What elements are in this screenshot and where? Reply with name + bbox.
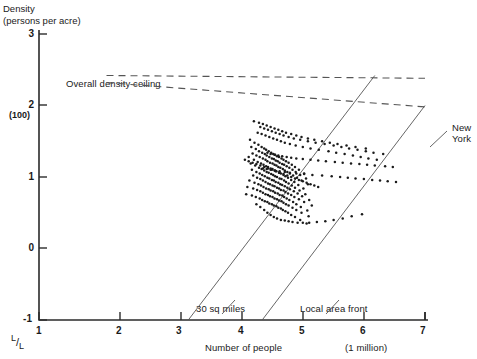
scatter-point (259, 206, 262, 209)
scatter-point (295, 209, 298, 212)
scatter-point (264, 193, 267, 196)
scatter-point (298, 169, 301, 172)
scatter-point (286, 174, 289, 177)
scatter-point (297, 184, 300, 187)
scatter-point (259, 178, 262, 181)
scatter-point (274, 181, 277, 184)
scatter-point (289, 143, 292, 146)
scatter-point (386, 180, 389, 183)
scatter-point (281, 155, 284, 158)
scatter-point (278, 194, 281, 197)
scatter-point (327, 150, 330, 153)
scatter-point (291, 169, 294, 172)
scatter-point (292, 201, 295, 204)
scatter-point (256, 176, 259, 179)
scatter-point (268, 202, 271, 205)
scatter-point (299, 139, 302, 142)
scatter-point (264, 175, 267, 178)
scatter-point (291, 221, 294, 224)
scatter-point (273, 127, 276, 130)
scatter-point (341, 217, 344, 220)
scatter-point (262, 123, 265, 126)
scatter-point (384, 165, 387, 168)
scatter-point (276, 139, 279, 142)
scatter-point (285, 181, 288, 184)
scatter-point (300, 136, 303, 139)
scatter-point (252, 187, 255, 190)
scatter-point (255, 171, 258, 174)
scatter-point (257, 183, 260, 186)
scatter-point (253, 120, 256, 123)
scatter-point (277, 154, 280, 157)
scatter-point (294, 177, 297, 180)
scatter-point (255, 148, 257, 151)
scatter-point (352, 154, 355, 157)
scatter-point (329, 141, 332, 144)
scatter-point (303, 173, 306, 176)
scatter-point (262, 157, 265, 160)
scatter-point (255, 203, 258, 206)
scatter-point (308, 222, 311, 225)
scatter-point (263, 166, 266, 169)
scatter-point (308, 199, 311, 202)
scatter-point (266, 212, 269, 215)
scatter-point (282, 134, 285, 137)
scatter-point (251, 161, 254, 164)
scatter-point (269, 126, 272, 128)
scatter-point (268, 136, 271, 139)
scatter-point (273, 216, 276, 219)
scatter-point (285, 197, 288, 200)
scatter-point (271, 169, 274, 172)
scatter-point (296, 192, 299, 195)
local-area-front-line (262, 106, 425, 321)
scatter-point (280, 189, 283, 192)
scatter-point (350, 215, 353, 218)
scatter-point (286, 186, 289, 189)
scatter-point (340, 146, 343, 149)
scatter-point (250, 146, 253, 149)
scatter-point (332, 219, 335, 222)
scatter-point (278, 161, 281, 164)
scatter-point (305, 181, 308, 184)
scatter-point (265, 124, 268, 127)
scatter-point (307, 215, 310, 218)
scatter-point (347, 176, 350, 179)
scatter-point (348, 147, 351, 150)
scatter-point (280, 140, 283, 143)
scatter-point (262, 179, 265, 182)
scatter-point (286, 171, 289, 174)
scatter-point (365, 150, 368, 153)
scatter-point (273, 204, 276, 207)
scatter-point (258, 150, 261, 153)
scatter-point (290, 179, 293, 182)
scatter-point (285, 131, 288, 134)
scatter-point (354, 177, 357, 180)
scatter-point (267, 167, 270, 170)
scatter-point (332, 144, 335, 147)
scatter-point (280, 178, 283, 181)
scatter-point (263, 127, 266, 130)
scatter-point (354, 146, 357, 149)
scatter-point (287, 192, 290, 195)
scatter-point (253, 159, 256, 162)
scatter-point (303, 201, 306, 204)
scatter-point (273, 185, 276, 188)
scatter-point (356, 149, 359, 152)
scatter-point (302, 158, 305, 161)
scatter-point (336, 143, 339, 146)
scatter-point (298, 189, 301, 192)
scatter-point (325, 160, 328, 163)
scatter-point (306, 209, 309, 212)
scatter-point (249, 139, 252, 142)
scatter-point (285, 203, 288, 206)
scatter-point (261, 174, 264, 177)
scatter-point (280, 219, 283, 222)
scatter-point (269, 214, 272, 217)
scatter-point (284, 210, 287, 213)
scatter-point (295, 203, 298, 206)
scatter-point (361, 213, 364, 216)
scatter-point (372, 151, 375, 154)
scatter-point (274, 191, 277, 194)
scatter-point (258, 121, 261, 124)
scatter-point (260, 184, 263, 187)
